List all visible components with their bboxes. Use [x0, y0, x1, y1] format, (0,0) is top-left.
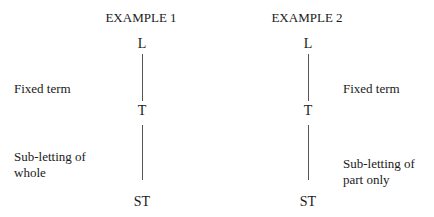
example-2-node-landlord: L	[304, 36, 313, 51]
example-2-title: EXAMPLE 2	[271, 10, 342, 25]
example-1-node-landlord: L	[138, 36, 147, 51]
example-2-relation-subletting-line2: part only	[343, 172, 390, 187]
example-1-line-l-t	[142, 54, 143, 101]
example-2-node-subtenant: ST	[300, 194, 316, 209]
example-2-relation-fixed-term: Fixed term	[343, 81, 400, 96]
example-2-relation-subletting-line1: Sub-letting of	[343, 156, 415, 171]
example-1-relation-subletting-line2: whole	[14, 165, 46, 180]
example-2-node-tenant: T	[304, 103, 313, 118]
example-1-relation-fixed-term: Fixed term	[14, 81, 71, 96]
example-1-title: EXAMPLE 1	[105, 10, 176, 25]
example-1-node-subtenant: ST	[134, 194, 150, 209]
example-2-line-l-t	[308, 54, 309, 101]
example-2-line-t-st	[308, 125, 309, 180]
example-1-node-tenant: T	[138, 103, 147, 118]
example-1-relation-subletting-line1: Sub-letting of	[14, 149, 86, 164]
example-1-line-t-st	[142, 125, 143, 180]
